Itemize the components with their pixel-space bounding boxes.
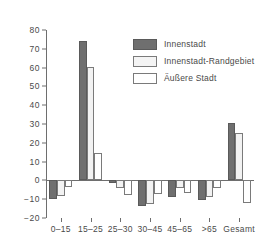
x-tick-mark	[239, 218, 240, 222]
x-tick-label: 25–30	[108, 224, 133, 234]
y-tick-label: −20	[0, 213, 44, 223]
legend-item-aeussere-stadt: Äußere Stadt	[133, 70, 254, 86]
x-tick-mark	[209, 218, 210, 222]
bar-65-series0	[198, 180, 206, 200]
x-tick-label: 45–65	[167, 224, 192, 234]
bar-Gesamt-series1	[235, 133, 243, 180]
bar-Gesamt-series0	[228, 123, 236, 180]
x-tick-label: >65	[202, 224, 217, 234]
bar-1525-series0	[79, 41, 87, 180]
legend-item-innenstadt-randgebiet: Innenstadt-Randgebiet	[133, 53, 254, 69]
bar-3045-series2	[154, 180, 162, 194]
bar-65-series1	[206, 180, 214, 197]
bar-015-series1	[57, 180, 65, 196]
legend-swatch-icon-innenstadt-randgebiet	[133, 56, 157, 67]
bar-2530-series2	[124, 180, 132, 195]
bar-015-series2	[65, 180, 73, 187]
legend-label-innenstadt-randgebiet: Innenstadt-Randgebiet	[164, 56, 254, 66]
y-tick-label: 70	[0, 44, 44, 54]
x-tick-mark	[150, 218, 151, 222]
bar-4565-series2	[184, 180, 192, 192]
y-tick-label: 40	[0, 100, 44, 110]
y-tick-label: 50	[0, 81, 44, 91]
bar-2530-series1	[116, 180, 124, 188]
bar-3045-series0	[138, 180, 146, 205]
bar-2530-series0	[109, 180, 117, 183]
bar-1525-series2	[94, 153, 102, 180]
x-tick-label: Gesamt	[223, 224, 255, 234]
x-tick-mark	[61, 218, 62, 222]
x-tick-mark	[180, 218, 181, 222]
y-tick-label: 20	[0, 138, 44, 148]
legend-label-innenstadt: Innenstadt	[164, 39, 206, 49]
legend-item-innenstadt: Innenstadt	[133, 36, 254, 52]
bar-4565-series0	[168, 180, 176, 197]
bar-1525-series1	[87, 67, 95, 181]
y-tick-label: −10	[0, 194, 44, 204]
bar-015-series0	[49, 180, 57, 199]
y-tick-label: 60	[0, 63, 44, 73]
legend-label-aeussere-stadt: Äußere Stadt	[164, 73, 216, 83]
bar-3045-series1	[146, 180, 154, 204]
bar-65-series2	[213, 180, 221, 188]
x-tick-mark	[120, 218, 121, 222]
bar-Gesamt-series2	[243, 180, 251, 203]
x-tick-mark	[91, 218, 92, 222]
bar-chart: −20−1001020304050607080 0–1515–2525–3030…	[0, 0, 264, 249]
x-tick-label: 0–15	[51, 224, 71, 234]
legend-swatch-icon-aeussere-stadt	[133, 73, 157, 84]
x-tick-label: 30–45	[137, 224, 162, 234]
y-tick-label: 30	[0, 119, 44, 129]
y-tick-label: 10	[0, 157, 44, 167]
x-tick-label: 15–25	[78, 224, 103, 234]
legend-swatch-icon-innenstadt	[133, 39, 157, 50]
chart-legend: Innenstadt Innenstadt-Randgebiet Äußere …	[133, 36, 254, 87]
y-tick-label: 80	[0, 25, 44, 35]
y-tick-label: 0	[0, 175, 44, 185]
bar-4565-series1	[176, 180, 184, 188]
